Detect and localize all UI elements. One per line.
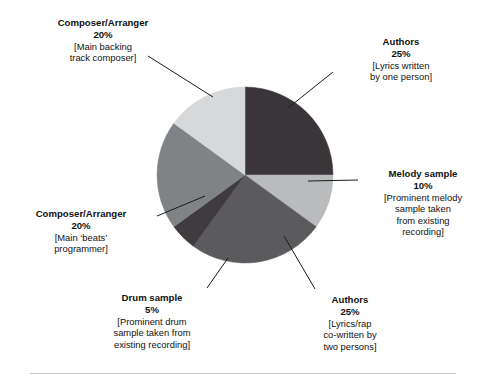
callout-composer-beats: Composer/Arranger 20% [Main ‘beats’ prog… bbox=[8, 208, 154, 255]
callout-title: Composer/Arranger bbox=[8, 208, 154, 220]
callout-percent: 25% bbox=[336, 48, 466, 60]
pie-chart-figure: Composer/Arranger 20% [Main backing trac… bbox=[0, 0, 486, 382]
callout-description: [Main backing track composer] bbox=[28, 41, 178, 64]
callout-authors-one-person: Authors 25% [Lyrics written by one perso… bbox=[336, 36, 466, 83]
callout-melody-sample: Melody sample 10% [Prominent melody samp… bbox=[362, 168, 484, 238]
pie-slice-group bbox=[157, 87, 333, 263]
pie-slice bbox=[245, 87, 333, 175]
callout-composer-backing: Composer/Arranger 20% [Main backing trac… bbox=[28, 17, 178, 64]
callout-authors-two-persons: Authors 25% [Lyrics/rap co-written by tw… bbox=[292, 294, 408, 352]
callout-title: Melody sample bbox=[362, 168, 484, 180]
callout-description: [Main ‘beats’ programmer] bbox=[8, 232, 154, 255]
callout-percent: 20% bbox=[28, 29, 178, 41]
callout-percent: 10% bbox=[362, 180, 484, 192]
callout-description: [Prominent melody sample taken from exis… bbox=[362, 192, 484, 238]
callout-percent: 5% bbox=[80, 304, 224, 316]
footer-divider bbox=[30, 373, 456, 374]
callout-description: [Lyrics written by one person] bbox=[336, 60, 466, 83]
callout-description: [Lyrics/rap co-written by two persons] bbox=[292, 318, 408, 353]
callout-percent: 20% bbox=[8, 220, 154, 232]
callout-title: Drum sample bbox=[80, 292, 224, 304]
callout-drum-sample: Drum sample 5% [Prominent drum sample ta… bbox=[80, 292, 224, 350]
callout-title: Authors bbox=[292, 294, 408, 306]
callout-description: [Prominent drum sample taken from existi… bbox=[80, 316, 224, 351]
callout-title: Composer/Arranger bbox=[28, 17, 178, 29]
leader-line-drum bbox=[207, 258, 228, 288]
callout-title: Authors bbox=[336, 36, 466, 48]
callout-percent: 25% bbox=[292, 306, 408, 318]
leader-line-authors-one bbox=[288, 72, 333, 108]
